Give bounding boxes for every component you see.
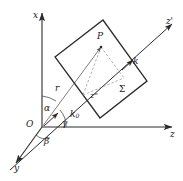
p-projection-dashed-right — [101, 47, 124, 78]
z-axis-label: z — [170, 130, 175, 139]
sigma-plane-label: Σ — [119, 85, 125, 94]
alpha-angle-label: α — [44, 104, 50, 113]
point-p-label: P — [97, 32, 103, 41]
z-prime-axis-label: z' — [166, 17, 173, 26]
alpha-angle-arc — [42, 96, 56, 101]
origin-label: O — [26, 120, 33, 129]
physics-diagram: x y z z' z'' O α β γ r k0 k P Σ — [0, 0, 183, 181]
beta-angle-label: β — [44, 137, 49, 146]
x-axis-label: x — [33, 11, 38, 20]
gamma-angle-label: γ — [62, 119, 67, 128]
r-vector-label: r — [55, 84, 59, 93]
point-p-marker — [100, 46, 103, 49]
p-projection-dashed-left — [83, 47, 101, 95]
y-axis-label: y — [14, 164, 19, 173]
k0-vector-subscript: 0 — [75, 112, 79, 119]
z-double-prime-axis-label: z'' — [90, 92, 98, 100]
k-vector-label: k — [133, 57, 138, 66]
k-vector-arrow — [122, 60, 133, 70]
k0-vector-label: k0 — [70, 110, 79, 119]
